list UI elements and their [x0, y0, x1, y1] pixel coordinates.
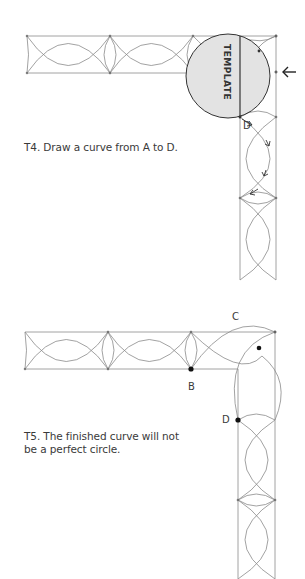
point-d [235, 417, 240, 422]
point-label-c: C [232, 311, 239, 322]
template-label: TEMPLATE [222, 44, 232, 100]
point-label-d-t5: D [222, 414, 230, 425]
caption-t5: T5. The finished curve will not be a per… [24, 430, 179, 456]
pointer-arrow-icon [283, 67, 296, 77]
caption-t4: T4. Draw a curve from A to D. [24, 141, 178, 154]
caption-t5-line2: be a perfect circle. [24, 443, 179, 456]
point-b [188, 366, 193, 371]
point-label-d-t4: D [243, 120, 251, 131]
caption-t5-line1: T5. The finished curve will not [24, 430, 179, 443]
quilting-diagram [0, 0, 305, 579]
point-c [257, 346, 262, 351]
point-label-b: B [188, 381, 195, 392]
